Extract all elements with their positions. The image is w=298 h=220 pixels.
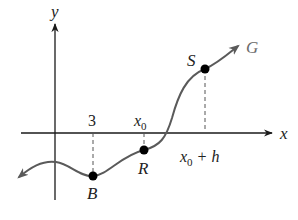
- tick-label-3: 3: [88, 112, 96, 129]
- point-r-label: R: [137, 159, 149, 178]
- curve-g-label: G: [246, 38, 258, 57]
- tick-label-x0-plus-h: x0 + h: [179, 148, 219, 168]
- point-b: [89, 172, 98, 181]
- function-graph: y x B R S G 3 x0 x0 + h: [0, 0, 298, 220]
- x-axis-label: x: [279, 124, 288, 143]
- point-s: [201, 65, 210, 74]
- point-s-label: S: [187, 51, 196, 70]
- point-b-label: B: [87, 184, 98, 203]
- point-r: [140, 146, 149, 155]
- y-axis-label: y: [49, 2, 59, 21]
- tick-label-x0: x0: [133, 112, 147, 132]
